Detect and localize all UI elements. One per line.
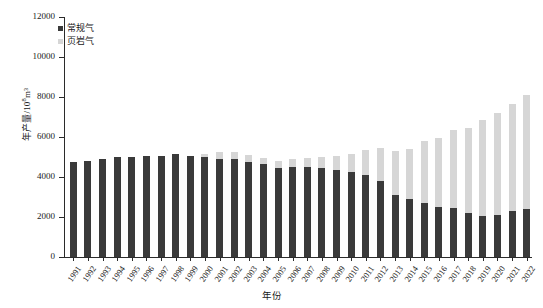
bar-group — [509, 104, 516, 257]
bar-segment-conventional — [479, 216, 486, 257]
x-axis-title: 年份 — [0, 288, 543, 302]
x-axis-tick — [132, 257, 133, 261]
bar-segment-shale — [465, 128, 472, 213]
bar-series-container — [64, 17, 532, 257]
y-axis-tick-label: 12000 — [33, 11, 56, 22]
y-axis-tick-label: 0 — [51, 251, 56, 262]
y-axis-title-exponent: 8 — [20, 98, 27, 101]
bar-group — [348, 154, 355, 257]
x-axis-tick — [527, 257, 528, 261]
bar-segment-conventional — [158, 156, 165, 257]
bar-segment-conventional — [494, 215, 501, 257]
bar-segment-conventional — [260, 164, 267, 257]
bar-group — [435, 138, 442, 257]
x-axis-tick — [468, 257, 469, 261]
bar-group — [289, 159, 296, 257]
bar-segment-conventional — [201, 157, 208, 257]
y-axis-tick: 0 — [59, 257, 64, 258]
x-axis-tick — [176, 257, 177, 261]
bar-segment-shale — [289, 159, 296, 167]
bar-segment-conventional — [128, 157, 135, 257]
x-axis-tick — [88, 257, 89, 261]
bar-group — [260, 158, 267, 257]
x-axis-tick — [278, 257, 279, 261]
x-axis-tick — [117, 257, 118, 261]
x-axis-tick — [337, 257, 338, 261]
x-axis-tick — [483, 257, 484, 261]
bar-segment-shale — [260, 158, 267, 164]
legend-swatch-icon — [58, 26, 63, 31]
bar-segment-conventional — [435, 207, 442, 257]
y-axis-tick-label: 8000 — [37, 91, 55, 102]
bar-group — [99, 159, 106, 257]
bar-group — [231, 152, 238, 257]
bar-group — [421, 141, 428, 257]
bar-segment-shale — [523, 95, 530, 209]
x-axis-tick — [249, 257, 250, 261]
bar-group — [304, 158, 311, 257]
bar-group — [465, 128, 472, 257]
bar-segment-conventional — [114, 157, 121, 257]
bar-segment-shale — [201, 154, 208, 157]
bar-group — [377, 148, 384, 257]
bar-segment-conventional — [70, 162, 77, 257]
x-axis-tick — [424, 257, 425, 261]
bar-group — [479, 120, 486, 257]
x-axis-tick — [190, 257, 191, 261]
bar-segment-shale — [275, 161, 282, 168]
x-axis-tick — [497, 257, 498, 261]
bar-segment-conventional — [523, 209, 530, 257]
bar-segment-conventional — [406, 199, 413, 257]
y-axis-tick-label: 6000 — [37, 131, 55, 142]
bar-group — [114, 157, 121, 257]
bar-segment-shale — [479, 120, 486, 216]
bar-group — [128, 157, 135, 257]
bar-segment-shale — [231, 152, 238, 159]
bar-segment-conventional — [318, 168, 325, 257]
bar-group — [275, 161, 282, 257]
bar-segment-shale — [435, 138, 442, 207]
bar-segment-conventional — [84, 161, 91, 257]
bar-segment-conventional — [377, 181, 384, 257]
bar-group — [187, 156, 194, 257]
bar-segment-conventional — [289, 167, 296, 257]
bar-segment-conventional — [216, 159, 223, 257]
x-axis-tick — [220, 257, 221, 261]
bar-segment-shale — [333, 156, 340, 170]
bar-group — [362, 150, 369, 257]
x-axis-tick — [351, 257, 352, 261]
bar-segment-shale — [304, 158, 311, 167]
bar-segment-conventional — [421, 203, 428, 257]
plot-area: 020004000600080001000012000 199119921993… — [64, 17, 532, 257]
x-axis-tick — [161, 257, 162, 261]
legend-item: 常规气 — [58, 22, 94, 35]
bar-segment-shale — [450, 130, 457, 208]
legend-label: 页岩气 — [67, 35, 94, 48]
bar-segment-conventional — [348, 172, 355, 257]
chart-figure: 年产量/108m³ 020004000600080001000012000 19… — [0, 0, 543, 308]
bar-segment-conventional — [450, 208, 457, 257]
bar-segment-shale — [509, 104, 516, 211]
x-axis-tick — [366, 257, 367, 261]
bar-segment-shale — [362, 150, 369, 175]
x-axis-tick — [380, 257, 381, 261]
x-axis-tick — [146, 257, 147, 261]
bar-group — [158, 156, 165, 257]
x-axis-tick — [205, 257, 206, 261]
bar-group — [216, 152, 223, 257]
y-axis-tick-label: 2000 — [37, 211, 55, 222]
bar-segment-conventional — [333, 170, 340, 257]
x-axis-tick — [454, 257, 455, 261]
x-axis-tick — [410, 257, 411, 261]
chart-legend: 常规气页岩气 — [58, 22, 94, 48]
x-axis-tick — [103, 257, 104, 261]
bar-segment-conventional — [187, 156, 194, 257]
x-axis-tick — [307, 257, 308, 261]
bar-segment-shale — [494, 113, 501, 215]
y-axis-tick-label: 4000 — [37, 171, 55, 182]
bar-segment-conventional — [465, 213, 472, 257]
bar-group — [172, 154, 179, 257]
x-axis-tick — [73, 257, 74, 261]
x-axis-tick — [512, 257, 513, 261]
bar-segment-shale — [348, 154, 355, 172]
